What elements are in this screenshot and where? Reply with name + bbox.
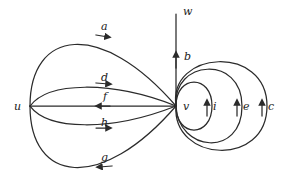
edge-label-h: h	[101, 117, 108, 128]
edge-label-c: c	[268, 101, 274, 112]
edge-label-g: g	[101, 152, 108, 163]
vertex-label-w: w	[183, 6, 192, 17]
edge-label-f: f	[103, 91, 107, 102]
edge-label-e: e	[243, 101, 250, 112]
edge-label-a: a	[101, 21, 108, 32]
edge-arrowhead-g	[99, 166, 112, 167]
edge-label-i: i	[213, 101, 217, 112]
edge-label-d: d	[101, 72, 108, 83]
edge-arrowhead-a	[96, 35, 108, 37]
vertex-label-v: v	[183, 101, 189, 112]
graph-canvas	[0, 0, 301, 180]
edge-label-b: b	[184, 51, 191, 62]
vertex-label-u: u	[14, 101, 21, 112]
graph-figure: u v w a d f h g b i e c	[0, 0, 301, 180]
